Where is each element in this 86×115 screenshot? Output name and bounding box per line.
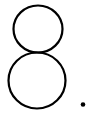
digit-eight-icon: [0, 0, 86, 115]
eight-top-loop: [14, 6, 63, 53]
period-dot: [81, 102, 86, 107]
glyph-canvas: 8.: [0, 0, 86, 115]
eight-bottom-loop: [9, 53, 66, 109]
